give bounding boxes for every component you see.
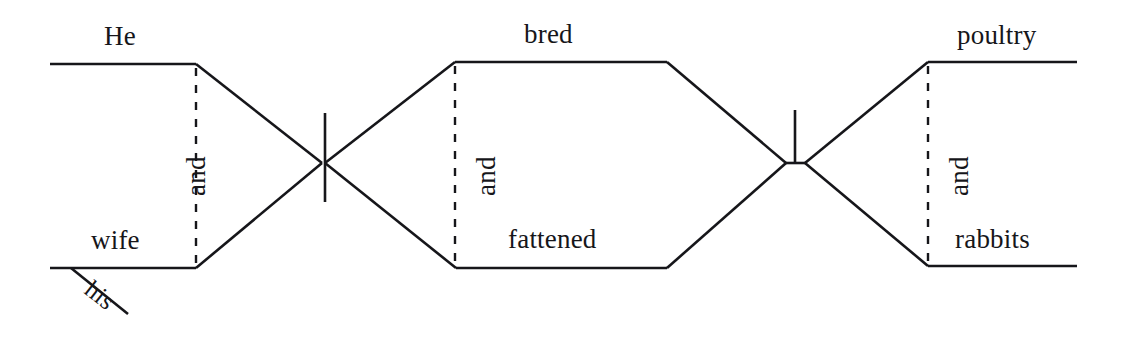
junction-one-spread-bottom bbox=[325, 163, 456, 268]
label-verb-conjunction: and bbox=[473, 156, 500, 196]
verb-bottom-converge bbox=[667, 163, 786, 268]
subject-top-converge bbox=[196, 64, 322, 163]
label-verb-top: bred bbox=[524, 21, 573, 48]
label-subject-bottom: wife bbox=[91, 227, 140, 254]
label-subject-conjunction: and bbox=[183, 156, 210, 196]
label-object-top: poultry bbox=[957, 22, 1036, 49]
label-object-bottom: rabbits bbox=[955, 226, 1030, 253]
label-object-conjunction: and bbox=[946, 156, 973, 196]
label-verb-bottom: fattened bbox=[508, 226, 597, 253]
junction-one-spread-top bbox=[325, 62, 455, 163]
junction-two-spread-top bbox=[805, 62, 928, 163]
subject-bottom-converge bbox=[196, 163, 322, 268]
verb-top-converge bbox=[667, 62, 786, 163]
junction-two-spread-bottom bbox=[805, 163, 928, 266]
label-subject-top: He bbox=[104, 23, 136, 50]
sentence-diagram-canvas: He wife and his bred fattened and poultr… bbox=[0, 0, 1121, 337]
